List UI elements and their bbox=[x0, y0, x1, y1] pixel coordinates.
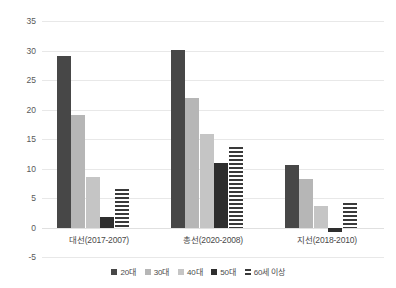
legend-item[interactable]: 60세 이상 bbox=[245, 266, 285, 277]
bar bbox=[115, 189, 129, 227]
legend-swatch-icon bbox=[211, 269, 217, 275]
y-axis-tick-label: 10 bbox=[6, 164, 36, 174]
x-axis-category-label: 지선(2018-2010) bbox=[270, 233, 384, 245]
bar bbox=[314, 206, 328, 228]
y-axis-tick-label: -5 bbox=[6, 252, 36, 262]
legend-swatch-icon bbox=[178, 269, 184, 275]
legend-item[interactable]: 40대 bbox=[178, 266, 202, 277]
legend-swatch-icon bbox=[245, 269, 251, 275]
bar bbox=[229, 147, 243, 228]
y-axis-tick-label: 30 bbox=[6, 46, 36, 56]
bar bbox=[285, 165, 299, 228]
bar bbox=[328, 228, 342, 232]
bar bbox=[57, 56, 71, 227]
legend-item-label: 30대 bbox=[154, 266, 169, 277]
bar bbox=[71, 115, 85, 228]
bar bbox=[299, 179, 313, 227]
bar bbox=[86, 177, 100, 227]
legend-item[interactable]: 20대 bbox=[111, 266, 135, 277]
bar-group bbox=[270, 21, 384, 257]
legend-item[interactable]: 30대 bbox=[145, 266, 169, 277]
y-axis-tick-label: 25 bbox=[6, 75, 36, 85]
x-axis-category-label: 대선(2017-2007) bbox=[42, 233, 156, 245]
bar bbox=[343, 203, 357, 228]
y-axis-tick-label: 35 bbox=[6, 16, 36, 26]
bar bbox=[214, 163, 228, 228]
bar bbox=[100, 217, 114, 228]
bar bbox=[171, 50, 185, 228]
bar bbox=[185, 98, 199, 227]
legend-item-label: 60세 이상 bbox=[254, 266, 285, 277]
bar-groups bbox=[42, 21, 384, 257]
legend-item-label: 20대 bbox=[120, 266, 135, 277]
gridline bbox=[42, 257, 384, 258]
y-axis-tick-label: 20 bbox=[6, 105, 36, 115]
bar-chart: 35302520151050-5 대선(2017-2007)총선(2020-20… bbox=[0, 0, 396, 288]
y-axis-tick-label: 5 bbox=[6, 193, 36, 203]
y-axis-tick-label: 15 bbox=[6, 134, 36, 144]
chart-legend: 20대30대40대50대60세 이상 bbox=[0, 266, 396, 277]
legend-item-label: 40대 bbox=[187, 266, 202, 277]
x-axis: 대선(2017-2007)총선(2020-2008)지선(2018-2010) bbox=[42, 233, 384, 249]
bar bbox=[200, 134, 214, 227]
legend-item[interactable]: 50대 bbox=[211, 266, 235, 277]
legend-item-label: 50대 bbox=[220, 266, 235, 277]
bar-group bbox=[42, 21, 156, 257]
legend-swatch-icon bbox=[111, 269, 117, 275]
legend-swatch-icon bbox=[145, 269, 151, 275]
y-axis-tick-label: 0 bbox=[6, 223, 36, 233]
bar-group bbox=[156, 21, 270, 257]
x-axis-category-label: 총선(2020-2008) bbox=[156, 233, 270, 245]
